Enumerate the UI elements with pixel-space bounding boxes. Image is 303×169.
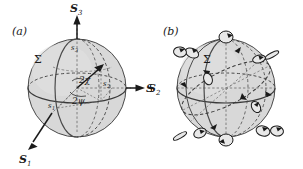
panel-a: (a) Σ S 3 S 2 S 1 s 3 s <box>0 0 152 169</box>
s2-axis-fragment-label: S 2 <box>150 82 161 97</box>
panel-b-drawing: S 2 (b) Σ <box>150 0 303 169</box>
panel-a-drawing: (a) Σ S 3 S 2 S 1 s 3 s <box>0 0 152 169</box>
panel-a-label: (a) <box>12 25 27 38</box>
s1-axis-label: S 1 <box>19 153 31 168</box>
s2-fragment-sub: 2 <box>155 89 161 97</box>
polarization-linear-west <box>172 130 187 141</box>
angle-label-2chi: 2χ <box>78 75 91 85</box>
s2-component-sub: 2 <box>106 83 110 89</box>
polarization-ellipse-se <box>255 124 271 137</box>
angle-label-2psi: 2ψ <box>71 96 86 106</box>
s1-axis-arrowhead <box>28 143 38 150</box>
polarization-circular-south <box>219 134 233 146</box>
panel-b: S 2 (b) Σ <box>150 0 303 169</box>
s3-axis-label: S 3 <box>70 2 83 17</box>
state-point-a <box>100 66 102 68</box>
polarization-linear-east <box>264 50 279 61</box>
s1-component-sub: 1 <box>52 105 55 111</box>
s3-component-sub: 3 <box>75 47 78 53</box>
s3-axis-label-sub: 3 <box>78 9 83 17</box>
s1-axis-label-text: S <box>19 153 27 166</box>
surface-label-sigma-b: Σ <box>203 53 211 66</box>
polarization-ellipse-far-e <box>270 125 285 137</box>
s2-axis-arrowhead <box>136 84 146 91</box>
panel-b-label: (b) <box>163 25 179 38</box>
polarization-circular-north <box>219 31 233 43</box>
poincare-sphere-figure: (a) Σ S 3 S 2 S 1 s 3 s <box>0 0 303 169</box>
s3-axis-label-text: S <box>70 2 78 15</box>
surface-label-sigma-a: Σ <box>34 53 42 66</box>
polarization-ellipse-far-w <box>173 46 188 58</box>
s1-axis-label-sub: 1 <box>27 160 31 168</box>
